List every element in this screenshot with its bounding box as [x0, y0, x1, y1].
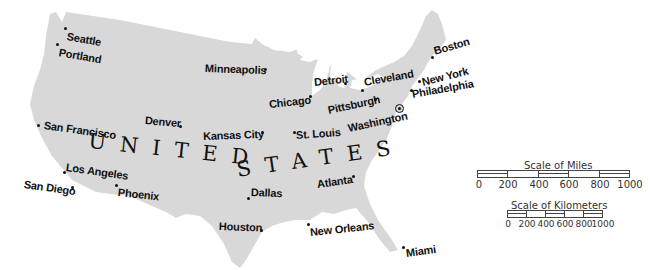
scale-km-tick: 800: [575, 219, 592, 229]
city-marker-dallas: [247, 197, 250, 200]
scale-km-tick: 600: [556, 219, 573, 229]
city-marker-boston: [431, 56, 434, 59]
city-label-minneapolis: Minneapolis: [205, 62, 267, 76]
city-label-dallas: Dallas: [251, 186, 283, 199]
city-label-kansas-city: Kansas City: [203, 128, 264, 142]
scale-km-tick: 0: [505, 219, 511, 229]
city-marker-new-york: [418, 80, 421, 83]
scale-miles-tick: 800: [590, 179, 609, 190]
scale-miles-tick: 1000: [617, 179, 642, 190]
city-marker-cleveland: [361, 89, 364, 92]
city-marker-san-francisco: [37, 124, 40, 127]
scale-km-tick: 400: [537, 219, 554, 229]
city-label-houston: Houston: [219, 220, 263, 234]
city-marker-seattle: [64, 27, 67, 30]
scale-miles-tick: 200: [498, 179, 517, 190]
scale-miles-bar: [477, 170, 630, 178]
scale-km-bar: [507, 210, 603, 218]
city-marker-portland: [56, 43, 59, 46]
scale-miles-tick: 400: [529, 179, 548, 190]
scale-miles-tick: 0: [476, 179, 482, 190]
scale-km-tick: 1000: [592, 219, 615, 229]
scale-km-tick: 200: [518, 219, 535, 229]
scale-miles-tick: 600: [559, 179, 578, 190]
